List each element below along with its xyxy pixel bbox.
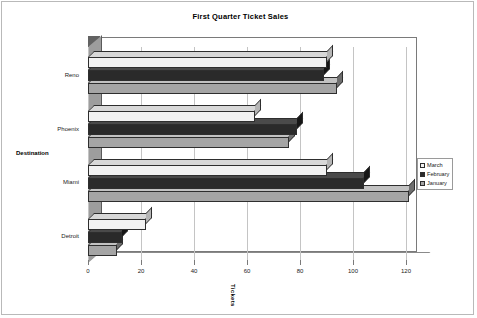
- bar-front-face: [88, 137, 289, 148]
- value-axis-tick-label: 40: [179, 268, 209, 274]
- bar-group: [88, 219, 406, 256]
- bar: [88, 165, 327, 176]
- value-axis-tick-label: 60: [232, 268, 262, 274]
- bar: [88, 57, 327, 68]
- bar: [88, 70, 324, 81]
- bar: [88, 219, 146, 230]
- chart-legend: MarchFebruaryJanuary: [417, 158, 453, 190]
- legend-item[interactable]: March: [420, 161, 449, 169]
- axis-tick-mark: [406, 260, 407, 265]
- gridline: [406, 47, 407, 262]
- bar-front-face: [88, 245, 117, 256]
- bar-side-face: [297, 112, 303, 129]
- chart-frame: First Quarter Ticket Sales RenoPhoenixMi…: [1, 1, 474, 315]
- bar: [88, 111, 255, 122]
- bar-front-face: [88, 178, 364, 189]
- legend-label: February: [427, 171, 449, 177]
- bar-front-face: [88, 191, 409, 202]
- axis-tick-mark: [88, 260, 89, 265]
- value-axis-tick-label: 0: [73, 268, 103, 274]
- bar-front-face: [88, 165, 327, 176]
- bar: [88, 191, 409, 202]
- axis-tick-mark: [247, 260, 248, 265]
- bar-front-face: [88, 124, 297, 135]
- category-axis-label: Reno: [65, 72, 79, 78]
- category-axis-label: Miami: [63, 179, 79, 185]
- axis-tick-mark: [194, 260, 195, 265]
- bar-group: [88, 111, 406, 148]
- value-axis-tick-label: 100: [338, 268, 368, 274]
- value-axis-tick-label: 20: [126, 268, 156, 274]
- value-axis-tick-label: 80: [285, 268, 315, 274]
- bar: [88, 245, 117, 256]
- bar-side-face: [364, 166, 370, 183]
- legend-item[interactable]: January: [420, 179, 449, 187]
- bar-group: [88, 57, 406, 94]
- bar: [88, 124, 297, 135]
- bar-front-face: [88, 111, 255, 122]
- bar-side-face: [337, 71, 343, 88]
- bar: [88, 83, 337, 94]
- plot-area: RenoPhoenixMiamiDetroit 020406080100120: [88, 47, 406, 262]
- legend-swatch-icon: [420, 181, 425, 186]
- axis-tick-mark: [353, 260, 354, 265]
- bar-front-face: [88, 83, 337, 94]
- bar: [88, 178, 364, 189]
- legend-label: March: [427, 162, 443, 168]
- category-axis-label: Phoenix: [57, 126, 79, 132]
- legend-label: January: [427, 180, 447, 186]
- axis-tick-mark: [141, 260, 142, 265]
- bar-front-face: [88, 232, 122, 243]
- value-axis-tick-label: 120: [391, 268, 421, 274]
- bar-front-face: [88, 70, 324, 81]
- legend-item[interactable]: February: [420, 170, 449, 178]
- value-axis-title: Tickets: [230, 284, 236, 307]
- axis-tick-mark: [300, 260, 301, 265]
- legend-swatch-icon: [420, 172, 425, 177]
- bar: [88, 232, 122, 243]
- bar: [88, 137, 289, 148]
- bar-front-face: [88, 219, 146, 230]
- bar-front-face: [88, 57, 327, 68]
- bar-group: [88, 165, 406, 202]
- category-axis-title: Destination: [16, 150, 49, 156]
- category-axis-label: Detroit: [61, 233, 79, 239]
- legend-swatch-icon: [420, 163, 425, 168]
- chart-title: First Quarter Ticket Sales: [2, 12, 477, 21]
